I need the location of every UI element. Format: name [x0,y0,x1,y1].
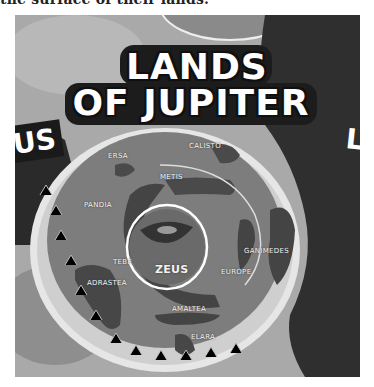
adjacent-map-title-right: L [338,120,360,160]
map-label-adrastea: ADRASTEA [87,279,127,287]
map-label-europe: EUROPE [221,268,251,276]
map-label-amaltea: AMALTEA [172,305,206,313]
adjacent-map-title-left: US [15,119,64,163]
map-label-metis: METIS [160,173,183,181]
map-label-ersa: ERSA [108,152,128,160]
map-title-line2: OF JUPITER [65,83,317,125]
map-label-zeus: ZEUS [155,263,189,276]
map-label-ganimedes: GANIMEDES [244,247,289,255]
page-caption: the surface of their lands. [0,0,209,7]
map-label-pandia: PANDIA [84,201,112,209]
map-label-tebe: TEBE [113,258,132,266]
map-label-elara: ELARA [191,333,215,341]
map-label-calisto: CALISTO [189,142,221,150]
map-illustration: LANDS OF JUPITER US L ERSA CALISTO METIS… [15,15,360,377]
map-title-line1: LANDS [120,45,272,85]
